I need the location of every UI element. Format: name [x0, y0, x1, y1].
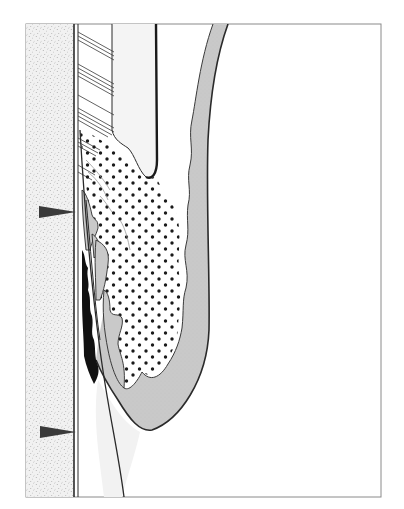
- diagram-canvas: [0, 0, 404, 509]
- cross-section-diagram: [0, 0, 404, 509]
- stippled-band: [26, 24, 74, 497]
